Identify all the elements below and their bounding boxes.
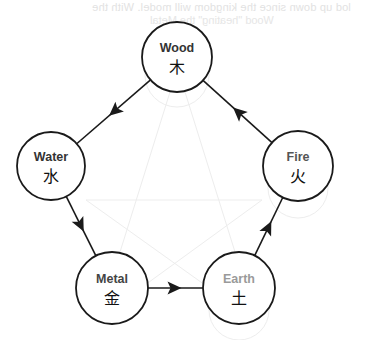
node-circle bbox=[203, 252, 275, 324]
node-chinese-character: 木 bbox=[169, 58, 185, 77]
node-circle bbox=[263, 131, 333, 201]
node-chinese-character: 火 bbox=[290, 167, 306, 186]
edge-water-to-metal bbox=[66, 196, 96, 255]
node-label: Earth bbox=[223, 272, 255, 286]
node-chinese-character: 土 bbox=[231, 289, 247, 308]
node-label: Metal bbox=[96, 272, 128, 286]
node-label: Wood bbox=[160, 41, 194, 55]
node-metal: Metal金 bbox=[76, 252, 148, 324]
node-circle bbox=[142, 22, 212, 92]
node-earth: Earth土 bbox=[203, 252, 275, 324]
node-chinese-character: 金 bbox=[104, 289, 120, 308]
node-water: Water水 bbox=[17, 132, 85, 200]
node-label: Water bbox=[34, 150, 68, 164]
edge-wood-to-water bbox=[77, 80, 151, 144]
node-wood: Wood木 bbox=[142, 22, 212, 92]
node-label: Fire bbox=[287, 150, 310, 164]
edge-metal-to-earth bbox=[148, 282, 203, 295]
node-circle bbox=[17, 132, 85, 200]
nodes-layer: Wood木Water水Fire火Metal金Earth土 bbox=[17, 22, 333, 324]
node-circle bbox=[76, 252, 148, 324]
node-chinese-character: 水 bbox=[43, 167, 59, 186]
node-fire: Fire火 bbox=[263, 131, 333, 201]
edge-earth-to-fire bbox=[255, 198, 283, 256]
five-elements-diagram: Wood木Water水Fire火Metal金Earth土 bbox=[0, 0, 370, 340]
edge-fire-to-wood bbox=[203, 80, 272, 142]
